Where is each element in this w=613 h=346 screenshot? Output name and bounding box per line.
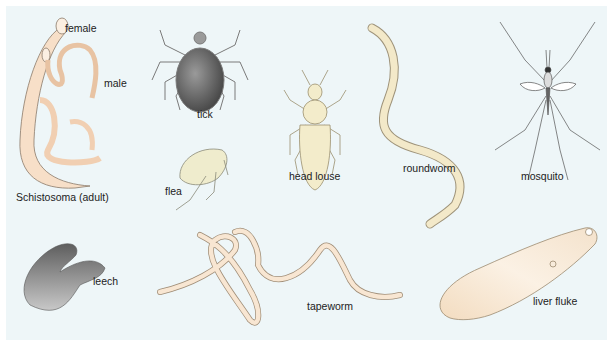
mosquito-icon bbox=[495, 22, 600, 180]
label-head-louse: head louse bbox=[289, 170, 340, 182]
flea-icon bbox=[176, 149, 228, 210]
label-leech: leech bbox=[93, 275, 118, 287]
label-tapeworm: tapeworm bbox=[307, 300, 353, 312]
label-flea: flea bbox=[165, 185, 182, 197]
roundworm-icon bbox=[372, 28, 460, 224]
label-schistosoma: Schistosoma (adult) bbox=[16, 191, 109, 203]
label-female: female bbox=[65, 22, 97, 34]
label-roundworm: roundworm bbox=[403, 162, 456, 174]
label-liver-fluke: liver fluke bbox=[533, 295, 577, 307]
schistosoma-icon bbox=[20, 18, 100, 188]
label-male: male bbox=[104, 77, 127, 89]
label-mosquito: mosquito bbox=[521, 170, 564, 182]
tapeworm-icon bbox=[160, 231, 400, 323]
tick-icon bbox=[152, 30, 248, 112]
label-tick: tick bbox=[197, 108, 213, 120]
